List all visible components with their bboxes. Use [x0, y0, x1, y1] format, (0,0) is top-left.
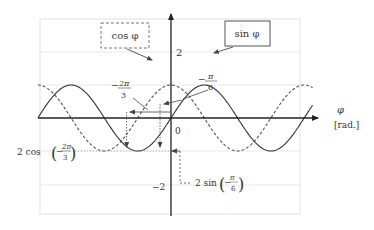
grid	[40, 19, 300, 214]
y-max-label: 2	[176, 47, 182, 58]
x-axis-label: φ	[337, 104, 344, 115]
svg-text:3: 3	[121, 91, 126, 100]
svg-text:−: −	[111, 80, 119, 90]
cos-legend-label: cos φ	[112, 30, 139, 41]
sin-legend-label: sin φ	[235, 28, 260, 39]
origin-label: 0	[175, 126, 181, 136]
cos-legend: cos φ	[101, 23, 152, 60]
svg-text:π: π	[229, 174, 235, 182]
svg-text:π: π	[207, 72, 214, 81]
label-cos-value: 2 cos ( − 2π 3 )	[17, 143, 76, 163]
svg-text:6: 6	[208, 83, 213, 92]
label-sin-value: 2 sin ( − π 6 )	[195, 174, 244, 194]
svg-text:): )	[70, 144, 76, 163]
svg-text:6: 6	[231, 185, 236, 193]
label-neg-two-pi-over-three: − 2π 3	[111, 79, 148, 110]
sin-legend: sin φ	[214, 21, 270, 53]
trig-diagram: φ [rad.] 2 −2 0 cos φ sin φ − 2π 3 − π 6	[0, 0, 374, 230]
svg-text:3: 3	[63, 154, 67, 162]
guides	[75, 100, 190, 183]
x-axis-unit: [rad.]	[334, 120, 359, 130]
y-min-label: −2	[152, 182, 165, 192]
svg-text:): )	[238, 175, 244, 194]
svg-text:2 cos: 2 cos	[17, 147, 41, 157]
svg-text:2 sin: 2 sin	[195, 178, 217, 188]
svg-text:−: −	[198, 74, 206, 84]
svg-text:2π: 2π	[118, 79, 130, 88]
